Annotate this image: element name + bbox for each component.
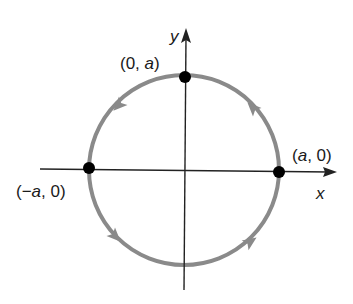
point-right xyxy=(273,166,285,178)
label-left: (−a, 0) xyxy=(16,182,66,201)
circle-diagram: y x (0, a) (a, 0) (−a, 0) xyxy=(0,0,353,304)
point-top xyxy=(179,71,191,83)
y-axis-label: y xyxy=(169,27,180,46)
label-right: (a, 0) xyxy=(292,146,332,165)
point-left xyxy=(83,162,95,174)
label-top: (0, a) xyxy=(120,54,160,73)
x-axis-arrow-icon xyxy=(323,167,337,177)
x-axis-label: x xyxy=(315,184,325,203)
